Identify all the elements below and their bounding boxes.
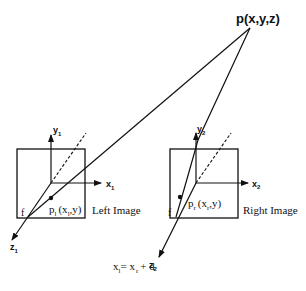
left-y-label: y1 <box>53 125 62 137</box>
right-optical-axis-dashed <box>196 133 231 183</box>
left-x-label: x1 <box>106 179 115 191</box>
right-z-axis <box>159 183 196 257</box>
left-projection-dot <box>49 196 53 200</box>
right-focal-label: f <box>168 207 172 218</box>
left-z-axis <box>12 183 51 240</box>
left-projection-label: pl(xl,y) <box>49 203 82 218</box>
right-projection-dot <box>178 195 182 199</box>
left-optical-axis-dashed <box>51 133 86 183</box>
point-label: p(x,y,z) <box>236 11 280 26</box>
left-ray <box>28 28 250 217</box>
right-camera <box>159 28 250 257</box>
disparity-equation: xl= xr+ d <box>113 260 155 275</box>
right-projection-label: pr(xr,y) <box>188 197 222 212</box>
stereo-diagram: p(x,y,z) y1 x1 z1 f pl(xl,y) Left Image … <box>0 0 306 291</box>
left-z-label: z1 <box>10 242 19 254</box>
left-image-label: Left Image <box>92 204 141 216</box>
right-image-label: Right Image <box>243 204 298 216</box>
right-ray <box>176 28 250 217</box>
left-focal-label: f <box>21 207 25 218</box>
right-x-label: x2 <box>252 179 261 190</box>
